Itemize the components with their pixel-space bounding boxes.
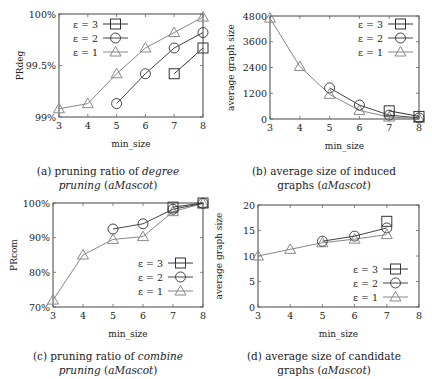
caption-c-line2-italic: pruning: [59, 364, 101, 376]
x-tick-label: 8: [416, 122, 422, 133]
plot-frame: [270, 16, 419, 119]
legend: ε = 3ε = 2ε = 1: [73, 19, 128, 58]
triangle-marker-icon: [395, 47, 406, 57]
x-tick-label: 7: [171, 120, 177, 131]
x-tick-label: 7: [386, 122, 392, 133]
legend-label: ε = 2: [73, 33, 98, 44]
caption-a: (a) pruning ratio of degree pruning (aMa…: [0, 164, 216, 192]
x-axis-label: min_size: [108, 329, 147, 340]
chart-d: 34567805101520min_sizeaverage graph size…: [214, 200, 422, 341]
y-tick-label: 0: [261, 114, 267, 125]
x-axis-label: min_size: [111, 139, 150, 150]
x-tick-label: 4: [85, 120, 91, 131]
chart-c: 34567870%80%90%100%min_sizePRcomε = 3ε =…: [9, 198, 209, 341]
y-tick-label: 80%: [29, 267, 50, 278]
x-tick-label: 3: [255, 310, 261, 321]
caption-d-line2-italic: aMascot: [322, 364, 367, 376]
y-axis-label: PRcom: [9, 239, 19, 271]
caption-c-italic: combine: [138, 350, 183, 362]
caption-d: (d) average size of candidate graphs (aM…: [216, 349, 432, 377]
series-triangle: [48, 198, 209, 304]
triangle-marker-icon: [175, 286, 186, 296]
y-tick-label: 0: [249, 302, 255, 313]
series-line: [270, 18, 419, 118]
y-tick-label: 1200: [243, 88, 267, 99]
y-tick-label: 100%: [29, 9, 56, 20]
x-tick-label: 6: [356, 122, 362, 133]
legend-label: ε = 1: [358, 47, 383, 58]
legend: ε = 3ε = 2ε = 1: [358, 19, 413, 58]
x-tick-label: 3: [50, 310, 56, 321]
x-tick-label: 3: [267, 122, 273, 133]
x-tick-label: 5: [319, 310, 325, 321]
y-tick-label: 5: [249, 276, 255, 287]
y-tick-label: 2400: [243, 62, 267, 73]
triangle-marker-icon: [140, 42, 151, 52]
legend-label: ε = 2: [358, 33, 383, 44]
caption-a-prefix: (a) pruning ratio of: [37, 165, 142, 177]
legend-label: ε = 3: [73, 19, 98, 30]
x-tick-label: 6: [142, 120, 148, 131]
caption-c-line2-end: ): [153, 364, 157, 376]
series-circle: [325, 83, 424, 123]
x-tick-label: 4: [287, 310, 293, 321]
legend-label: ε = 1: [138, 286, 163, 297]
x-tick-label: 8: [416, 310, 422, 321]
caption-c-line2-italic2: aMascot: [108, 364, 153, 376]
y-tick-label: 15: [243, 225, 255, 236]
series-line: [59, 17, 203, 109]
caption-a-line2-italic2: aMascot: [108, 179, 153, 191]
x-tick-label: 4: [297, 122, 303, 133]
caption-d-line1: (d) average size of candidate: [216, 349, 432, 363]
x-tick-label: 8: [200, 310, 206, 321]
caption-a-italic: degree: [142, 165, 179, 177]
x-tick-label: 5: [114, 120, 120, 131]
legend: ε = 3ε = 2ε = 1: [138, 258, 193, 297]
chart-a: 34567899%99.5%100%min_sizePRdegε = 3ε = …: [15, 9, 209, 151]
x-tick-label: 6: [140, 310, 146, 321]
series-line: [117, 33, 203, 104]
x-tick-label: 5: [110, 310, 116, 321]
y-tick-label: 90%: [29, 232, 50, 243]
y-axis-label: average graph size: [214, 213, 224, 300]
series-circle: [108, 198, 208, 234]
x-axis-label: min_size: [319, 329, 358, 340]
caption-b-line2-italic: aMascot: [322, 179, 367, 191]
y-tick-label: 3600: [243, 36, 267, 47]
x-tick-label: 6: [352, 310, 358, 321]
series-line: [174, 48, 203, 74]
series-square: [169, 43, 208, 79]
caption-c: (c) pruning ratio of combine pruning (aM…: [0, 349, 216, 377]
caption-d-line2-plain: graphs (: [277, 364, 321, 376]
x-tick-label: 4: [80, 310, 86, 321]
triangle-marker-icon: [110, 47, 121, 57]
y-tick-label: 100%: [23, 198, 50, 209]
y-tick-label: 99.5%: [26, 60, 56, 71]
y-axis-label: average graph size: [226, 24, 236, 111]
y-tick-label: 20: [243, 200, 255, 211]
x-tick-label: 7: [384, 310, 390, 321]
caption-b-line1: (b) average size of induced: [216, 164, 432, 178]
legend-label: ε = 1: [353, 292, 378, 303]
y-tick-label: 4800: [243, 11, 267, 22]
chart-b: 34567801200240036004800min_sizeaverage g…: [226, 11, 425, 153]
x-tick-label: 7: [170, 310, 176, 321]
y-tick-label: 70%: [29, 302, 50, 313]
y-axis-label: PRdeg: [15, 50, 25, 80]
legend-label: ε = 3: [358, 19, 383, 30]
legend-label: ε = 1: [73, 47, 98, 58]
legend-label: ε = 3: [138, 258, 163, 269]
caption-d-line2-end: ): [367, 364, 371, 376]
legend: ε = 3ε = 2ε = 1: [353, 264, 408, 303]
triangle-marker-icon: [390, 292, 401, 302]
triangle-marker-icon: [138, 231, 149, 241]
caption-b: (b) average size of induced graphs (aMas…: [216, 164, 432, 192]
x-tick-label: 8: [200, 120, 206, 131]
caption-c-prefix: (c) pruning ratio of: [33, 350, 138, 362]
x-tick-label: 5: [327, 122, 333, 133]
caption-b-line2-end: ): [367, 179, 371, 191]
caption-b-line2-plain: graphs (: [277, 179, 321, 191]
legend-label: ε = 3: [353, 264, 378, 275]
legend-label: ε = 2: [138, 272, 163, 283]
caption-a-line2-italic: pruning: [59, 179, 101, 191]
